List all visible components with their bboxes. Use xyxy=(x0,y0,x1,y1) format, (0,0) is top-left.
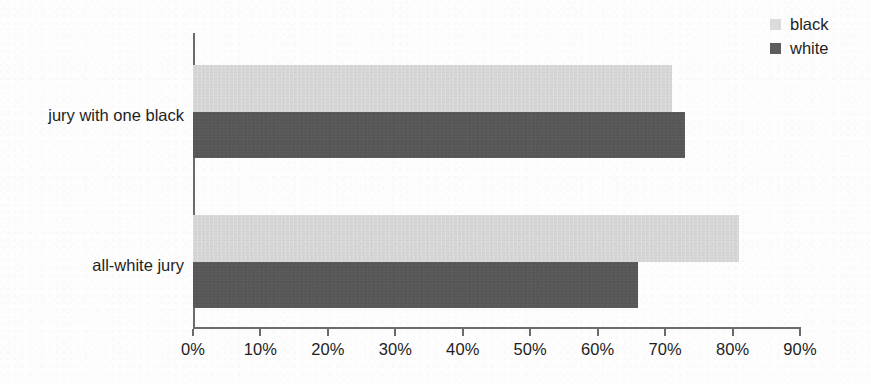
x-axis-tick-label: 90% xyxy=(783,340,816,359)
x-axis-tick xyxy=(259,329,261,336)
x-axis-tick xyxy=(327,329,329,336)
x-axis-tick-label: 20% xyxy=(311,340,344,359)
x-axis-tick xyxy=(597,329,599,336)
bar-all-white-jury-black xyxy=(193,215,739,262)
plot-area xyxy=(193,33,800,327)
x-axis-tick-label: 70% xyxy=(648,340,681,359)
x-axis-tick-label: 50% xyxy=(514,340,547,359)
x-axis-tick-label: 0% xyxy=(181,340,205,359)
category-label-text: all-white jury xyxy=(92,256,184,274)
y-axis-category-label-jury-with-one-black: jury with one black xyxy=(0,106,184,125)
x-axis-tick xyxy=(664,329,666,336)
x-axis-tick-label: 10% xyxy=(244,340,277,359)
x-axis-tick-label: 40% xyxy=(446,340,479,359)
category-label-text: jury with one black xyxy=(48,106,184,124)
y-axis-category-label-all-white-jury: all-white jury xyxy=(0,256,184,275)
legend-label-black: black xyxy=(790,16,829,33)
bar-jury-with-one-black-black xyxy=(193,65,672,112)
x-axis-tick-label: 60% xyxy=(581,340,614,359)
x-axis-line xyxy=(193,327,801,329)
x-axis-tick xyxy=(732,329,734,336)
x-axis-tick xyxy=(462,329,464,336)
bar-chart-figure: black white 0%10%20%30%40%50%60%70%80%90… xyxy=(0,0,871,384)
x-axis-tick xyxy=(192,329,194,336)
x-axis-tick xyxy=(394,329,396,336)
x-axis-tick xyxy=(529,329,531,336)
x-axis-tick xyxy=(799,329,801,336)
x-axis-tick-label: 30% xyxy=(379,340,412,359)
legend-swatch-black-icon xyxy=(770,19,781,30)
bar-jury-with-one-black-white xyxy=(193,112,685,158)
x-axis-tick-label: 80% xyxy=(716,340,749,359)
bar-all-white-jury-white xyxy=(193,262,638,308)
